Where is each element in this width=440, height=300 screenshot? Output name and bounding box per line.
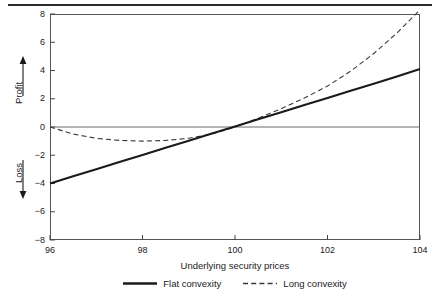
- x-tick-label: 98: [123, 246, 163, 255]
- x-tick-label: 102: [308, 246, 348, 255]
- series-line-flat-convexity: [50, 69, 420, 183]
- x-tick-label: 100: [215, 246, 255, 255]
- x-tick-label: 104: [400, 246, 440, 255]
- y-tick-label: 0: [19, 123, 45, 132]
- figure-container: 86420−2−4−6−8 9698100102104 Profit Loss …: [0, 0, 440, 300]
- x-axis-title: Underlying security prices: [50, 260, 420, 271]
- y-axis-title-loss: Loss: [14, 151, 24, 195]
- y-tick-label: −8: [19, 236, 45, 245]
- legend-item-long-convexity: Long convexity: [243, 278, 346, 289]
- legend-swatch-solid-icon: [123, 279, 157, 288]
- legend-label-long-convexity: Long convexity: [283, 278, 346, 289]
- y-tick-label: 6: [19, 38, 45, 47]
- y-axis-title-profit: Profit: [14, 71, 24, 115]
- chart-legend: Flat convexity Long convexity: [50, 278, 420, 289]
- y-tick-label: −6: [19, 207, 45, 216]
- legend-item-flat-convexity: Flat convexity: [123, 278, 221, 289]
- up-arrow-icon: [20, 56, 27, 64]
- y-tick-label: 8: [19, 10, 45, 19]
- chart-canvas: [0, 0, 440, 300]
- series-line-long-convexity: [50, 10, 420, 141]
- legend-label-flat-convexity: Flat convexity: [163, 278, 221, 289]
- x-tick-label: 96: [30, 246, 70, 255]
- legend-swatch-dashed-icon: [243, 279, 277, 288]
